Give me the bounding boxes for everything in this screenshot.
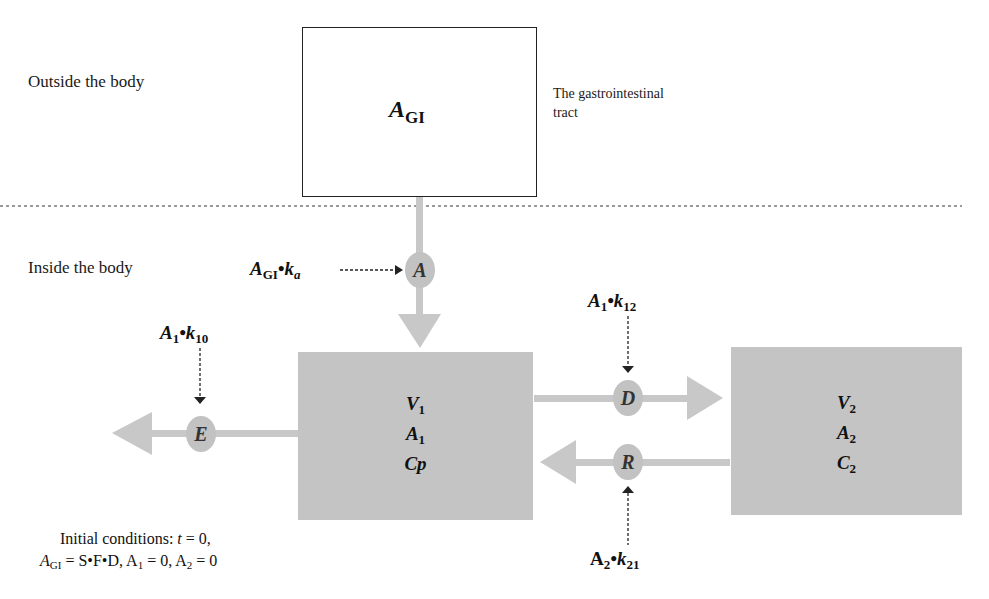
elimination-node: E [186,416,216,452]
elimination-arrow-shaft [150,430,300,437]
peripheral-concentration-label: C2 [731,451,962,481]
redistribution-rate-label: A2•k21 [590,548,639,573]
redistribution-arrow-shaft [575,459,730,466]
gi-tract-description: The gastrointestinal tract [553,84,664,122]
inside-body-label: Inside the body [28,258,133,278]
distribution-rate-label: A1•k12 [588,290,636,315]
gi-amount-label: AGI [389,96,425,128]
central-volume-label: V1 [298,392,533,422]
initial-conditions-line2: AGI = S•F•D, A1 = 0, A2 = 0 [40,550,217,576]
redistribution-node: R [613,444,643,480]
absorption-arrowhead [398,314,441,348]
distribution-node: D [613,380,643,416]
peripheral-amount-label: A2 [731,421,962,451]
peripheral-volume-label: V2 [731,391,962,421]
central-amount-label: A1 [298,422,533,452]
initial-conditions-line1: Initial conditions: t = 0, [40,528,217,550]
distribution-arrowhead [687,376,723,420]
redistribution-arrowhead [540,440,576,484]
plasma-concentration-label: Cp [298,452,533,476]
distribution-arrow-shaft [534,395,689,402]
gi-tract-compartment: AGI [302,27,537,197]
peripheral-compartment: V2 A2 C2 [731,347,962,515]
absorption-node: A [405,252,435,288]
elimination-arrowhead [112,412,152,455]
outside-body-label: Outside the body [28,72,144,92]
central-compartment: V1 A1 Cp [298,352,533,520]
absorption-rate-label: AGI•ka [250,258,301,283]
two-compartment-oral-pk-diagram: Outside the body Inside the body AGI The… [0,0,989,599]
initial-conditions: Initial conditions: t = 0, AGI = S•F•D, … [40,528,217,576]
elimination-rate-label: A1•k10 [160,322,208,347]
